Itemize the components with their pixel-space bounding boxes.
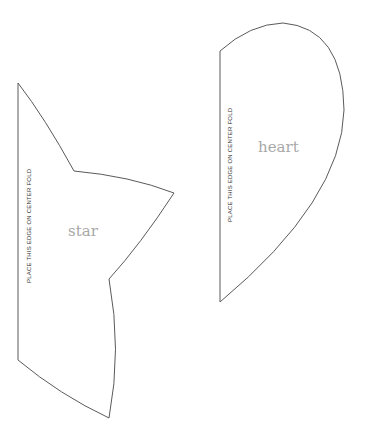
star-fold-instruction: PLACE THIS EDGE ON CENTER FOLD bbox=[26, 168, 32, 283]
heart-template: PLACE THIS EDGE ON CENTER FOLD heart bbox=[220, 23, 344, 302]
heart-outline bbox=[220, 23, 344, 302]
pattern-sheet: PLACE THIS EDGE ON CENTER FOLD star PLAC… bbox=[0, 0, 383, 429]
star-template: PLACE THIS EDGE ON CENTER FOLD star bbox=[18, 83, 174, 418]
star-outline bbox=[18, 83, 174, 418]
heart-fold-instruction: PLACE THIS EDGE ON CENTER FOLD bbox=[227, 107, 233, 222]
heart-label: heart bbox=[258, 138, 299, 156]
star-label: star bbox=[68, 222, 99, 240]
